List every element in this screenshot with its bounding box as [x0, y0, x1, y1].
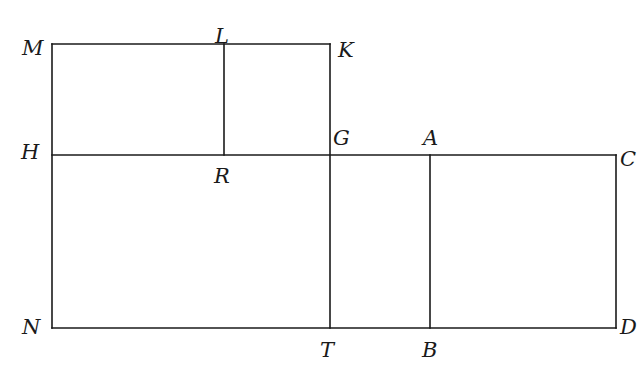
vertex-label-l: L: [215, 26, 229, 47]
vertex-label-a: A: [423, 128, 438, 149]
vertex-label-n: N: [22, 317, 40, 338]
vertex-label-h: H: [21, 142, 39, 163]
geometry-figure: [0, 0, 643, 391]
vertex-label-b: B: [422, 340, 437, 361]
vertex-label-k: K: [338, 40, 354, 61]
vertex-label-r: R: [214, 166, 230, 187]
vertex-label-g: G: [333, 128, 350, 149]
vertex-label-t: T: [320, 340, 334, 361]
vertex-label-m: M: [22, 38, 44, 59]
diagram-canvas: MLKHRGACNTBD: [0, 0, 643, 391]
vertex-label-d: D: [620, 317, 637, 338]
vertex-label-c: C: [620, 149, 636, 170]
